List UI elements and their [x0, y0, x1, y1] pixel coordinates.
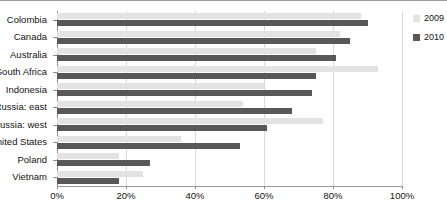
bar-2009 [57, 31, 340, 37]
x-tick-label: 80% [323, 190, 342, 201]
bar-group [57, 134, 402, 152]
bar-group [57, 116, 402, 134]
x-tick-label: 60% [254, 190, 273, 201]
x-axis-tick [126, 186, 127, 189]
bar-2010 [57, 55, 336, 61]
y-axis-tick [53, 20, 57, 21]
category-label: Russia: east [0, 101, 47, 112]
x-axis-tick-labels: 0%20%40%60%80%100% [0, 190, 447, 206]
category-label: Indonesia [0, 84, 47, 95]
bar-2010 [57, 143, 240, 149]
y-axis-tick [53, 142, 57, 143]
y-axis-tick [53, 90, 57, 91]
category-label: Vietnam [0, 171, 47, 182]
x-tick-label: 100% [390, 190, 414, 201]
x-axis-tick [264, 186, 265, 189]
bar-2009 [57, 136, 181, 142]
chart-legend: 20092010 [413, 13, 447, 51]
bar-group [57, 46, 402, 64]
bar-2009 [57, 13, 361, 19]
bar-group [57, 99, 402, 117]
bar-2009 [57, 153, 119, 159]
x-axis-tick [195, 186, 196, 189]
bar-group [57, 169, 402, 187]
legend-label: 2010 [424, 32, 444, 42]
bar-2009 [57, 118, 323, 124]
y-axis-tick [53, 125, 57, 126]
legend-swatch-icon [413, 15, 420, 22]
category-label: United States [0, 136, 47, 147]
legend-item-2009[interactable]: 2009 [413, 13, 447, 23]
y-axis-tick [53, 107, 57, 108]
x-axis-tick [333, 186, 334, 189]
category-label: Colombia [0, 14, 47, 25]
bar-2009 [57, 171, 143, 177]
x-tick-label: 40% [185, 190, 204, 201]
bar-2010 [57, 178, 119, 184]
bar-group [57, 81, 402, 99]
bar-2010 [57, 108, 292, 114]
category-label: South Africa [0, 66, 47, 77]
legend-item-2010[interactable]: 2010 [413, 32, 447, 42]
bar-group [57, 64, 402, 82]
y-axis-tick [53, 37, 57, 38]
y-axis-category-labels: ColombiaCanadaAustraliaSouth AfricaIndon… [0, 11, 53, 186]
category-label: Canada [0, 31, 47, 42]
bar-group [57, 29, 402, 47]
y-axis-tick [53, 55, 57, 56]
category-label: Russia: west [0, 119, 47, 130]
y-axis-tick [53, 160, 57, 161]
bar-2010 [57, 90, 312, 96]
category-label: Poland [0, 154, 47, 165]
bar-2010 [57, 160, 150, 166]
bar-2010 [57, 38, 350, 44]
x-tick-label: 0% [50, 190, 64, 201]
bar-2009 [57, 48, 316, 54]
y-axis-tick [53, 177, 57, 178]
x-axis-line [57, 186, 403, 187]
legend-label: 2009 [424, 13, 444, 23]
bar-group [57, 151, 402, 169]
bar-group [57, 11, 402, 29]
x-axis-tick [402, 186, 403, 189]
y-axis-tick [53, 72, 57, 73]
plot-area [57, 11, 402, 186]
bar-2009 [57, 66, 378, 72]
x-axis-tick [57, 186, 58, 189]
legend-swatch-icon [413, 34, 420, 41]
bar-2009 [57, 101, 243, 107]
gridline-100pct [402, 11, 403, 186]
bar-chart: ColombiaCanadaAustraliaSouth AfricaIndon… [0, 0, 447, 210]
bar-2010 [57, 125, 267, 131]
bar-2009 [57, 83, 264, 89]
category-label: Australia [0, 49, 47, 60]
x-tick-label: 20% [116, 190, 135, 201]
bar-2010 [57, 20, 368, 26]
bar-2010 [57, 73, 316, 79]
